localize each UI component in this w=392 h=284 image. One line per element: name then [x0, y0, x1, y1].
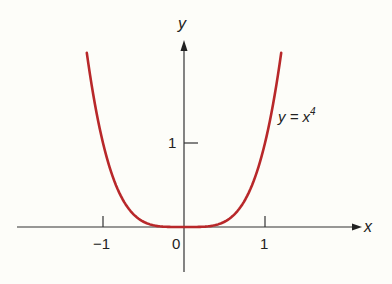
curve-label-exponent: 4 [310, 106, 316, 117]
x-tick-label-0: 0 [172, 236, 180, 251]
y-axis-label: y [178, 16, 186, 32]
y-axis-arrow-icon [181, 40, 188, 51]
x-tick-label-pos1: 1 [260, 236, 268, 251]
y-tick-label-1: 1 [168, 135, 176, 150]
curve-label: y = x4 [278, 109, 316, 124]
plot-area [0, 0, 392, 284]
curve-label-base: y = x [278, 108, 310, 125]
x-tick-label-neg1: −1 [93, 236, 110, 251]
x-axis-label: x [364, 219, 372, 235]
x-axis-arrow-icon [352, 224, 362, 231]
